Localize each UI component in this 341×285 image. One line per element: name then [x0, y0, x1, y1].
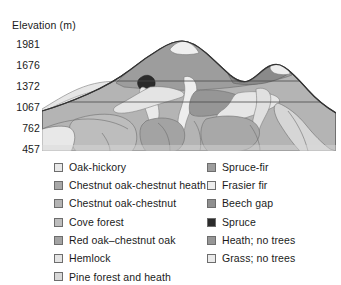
legend-swatch-spruce: [207, 218, 216, 227]
legend-swatch-pine-forest-and-heath: [54, 272, 63, 281]
legend-swatch-hemlock: [54, 254, 63, 263]
legend-item-chestnut-oak-chestnut-heath[interactable]: Chestnut oak-chestnut heath: [54, 176, 204, 194]
legend-swatch-red-oak-chestnut-oak: [54, 236, 63, 245]
y-axis-title: Elevation (m): [12, 19, 76, 31]
legend-column-right: Spruce-fir Frasier fir Beech gap Spruce …: [207, 158, 337, 268]
legend-label-spruce-fir: Spruce-fir: [222, 162, 269, 173]
y-axis-tick-762: 762: [2, 122, 40, 134]
legend-label-pine-forest-and-heath: Pine forest and heath: [69, 272, 171, 283]
legend-label-beech-gap: Beech gap: [222, 198, 273, 209]
y-axis-tick-1372: 1372: [2, 80, 40, 92]
legend-label-hemlock: Hemlock: [69, 253, 111, 264]
legend-item-pine-forest-and-heath[interactable]: Pine forest and heath: [54, 268, 204, 285]
y-axis-tick-1676: 1676: [2, 59, 40, 71]
legend-label-red-oak-chestnut-oak: Red oak–chestnut oak: [69, 235, 176, 246]
y-axis-tick-1067: 1067: [2, 101, 40, 113]
legend-swatch-spruce-fir: [207, 163, 216, 172]
legend: Oak-hickory Chestnut oak-chestnut heath …: [0, 158, 341, 285]
legend-item-chestnut-oak-chestnut[interactable]: Chestnut oak-chestnut: [54, 195, 204, 213]
legend-column-left: Oak-hickory Chestnut oak-chestnut heath …: [54, 158, 204, 285]
diagram-valley-floor: [42, 145, 336, 151]
legend-swatch-chestnut-oak-chestnut: [54, 199, 63, 208]
legend-item-spruce-fir[interactable]: Spruce-fir: [207, 158, 337, 176]
legend-label-heath-no-trees: Heath; no trees: [222, 235, 295, 246]
y-axis-tick-457: 457: [2, 143, 40, 155]
legend-label-oak-hickory: Oak-hickory: [69, 162, 126, 173]
legend-item-spruce[interactable]: Spruce: [207, 213, 337, 231]
legend-item-oak-hickory[interactable]: Oak-hickory: [54, 158, 204, 176]
legend-label-chestnut-oak-chestnut: Chestnut oak-chestnut: [69, 198, 176, 209]
legend-label-grass-no-trees: Grass; no trees: [222, 253, 295, 264]
legend-item-hemlock[interactable]: Hemlock: [54, 249, 204, 267]
mountain-cross-section-diagram: [42, 37, 336, 151]
legend-item-heath-no-trees[interactable]: Heath; no trees: [207, 231, 337, 249]
legend-label-chestnut-oak-chestnut-heath: Chestnut oak-chestnut heath: [69, 180, 206, 191]
legend-swatch-frasier-fir: [207, 181, 216, 190]
legend-item-beech-gap[interactable]: Beech gap: [207, 195, 337, 213]
legend-item-red-oak-chestnut-oak[interactable]: Red oak–chestnut oak: [54, 231, 204, 249]
legend-swatch-heath-no-trees: [207, 236, 216, 245]
legend-swatch-grass-no-trees: [207, 254, 216, 263]
legend-label-frasier-fir: Frasier fir: [222, 180, 267, 191]
legend-swatch-beech-gap: [207, 199, 216, 208]
legend-swatch-chestnut-oak-chestnut-heath: [54, 181, 63, 190]
legend-label-cove-forest: Cove forest: [69, 217, 124, 228]
legend-item-grass-no-trees[interactable]: Grass; no trees: [207, 249, 337, 267]
elevation-vegetation-figure: Elevation (m) 1981 1676 1372 1067 762 45…: [0, 0, 341, 285]
legend-item-cove-forest[interactable]: Cove forest: [54, 213, 204, 231]
legend-label-spruce: Spruce: [222, 217, 256, 228]
legend-swatch-oak-hickory: [54, 163, 63, 172]
y-axis-tick-1981: 1981: [2, 38, 40, 50]
legend-item-frasier-fir[interactable]: Frasier fir: [207, 176, 337, 194]
legend-swatch-cove-forest: [54, 218, 63, 227]
